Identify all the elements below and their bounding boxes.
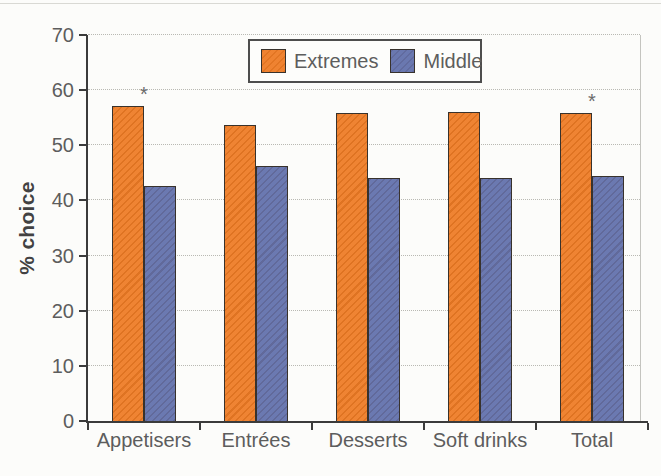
x-category-label-appetisers: Appetisers (88, 429, 200, 452)
y-tick-10 (79, 365, 87, 367)
bar-extremes-entr-es (224, 125, 256, 421)
extremes-color-swatch (261, 49, 286, 73)
y-tick-label-20: 20 (24, 299, 74, 323)
legend-label-extremes: Extremes (294, 50, 378, 73)
y-tick-label-0: 0 (24, 409, 74, 433)
gridline-60 (88, 89, 640, 90)
significance-asterisk-appetisers: * (140, 84, 148, 104)
bar-middle-appetisers (144, 186, 176, 421)
x-category-label-soft-drinks: Soft drinks (424, 429, 536, 452)
y-tick-label-10: 10 (24, 354, 74, 378)
y-tick-30 (79, 255, 87, 257)
legend-item-middle: Middle (390, 49, 482, 73)
bar-chart-figure: % choice ** Extremes Middle 010203040506… (0, 0, 661, 476)
significance-asterisk-total: * (588, 91, 596, 111)
x-category-label-entr-es: Entrées (200, 429, 312, 452)
bar-extremes-soft-drinks (448, 112, 480, 421)
bar-extremes-desserts (336, 113, 368, 421)
y-tick-60 (79, 89, 87, 91)
bar-extremes-total (560, 113, 592, 421)
gridline-70 (88, 34, 640, 35)
y-tick-50 (79, 144, 87, 146)
y-tick-label-70: 70 (24, 23, 74, 47)
plot-area: ** (88, 35, 641, 421)
bar-middle-entr-es (256, 166, 288, 421)
y-axis-title: % choice (15, 148, 39, 308)
photo-top-edge (0, 3, 661, 4)
y-tick-70 (79, 34, 87, 36)
bar-middle-desserts (368, 178, 400, 421)
middle-color-swatch (390, 49, 415, 73)
bar-extremes-appetisers (112, 106, 144, 421)
y-tick-label-30: 30 (24, 244, 74, 268)
x-category-label-desserts: Desserts (312, 429, 424, 452)
x-category-label-total: Total (536, 429, 648, 452)
y-tick-20 (79, 310, 87, 312)
bar-middle-soft-drinks (480, 178, 512, 421)
y-tick-40 (79, 199, 87, 201)
legend-item-extremes: Extremes (261, 49, 378, 73)
legend-label-middle: Middle (423, 50, 482, 73)
bar-middle-total (592, 176, 624, 421)
y-tick-label-50: 50 (24, 133, 74, 157)
y-tick-0 (79, 420, 87, 422)
legend: Extremes Middle (248, 39, 482, 83)
y-tick-label-60: 60 (24, 78, 74, 102)
y-tick-label-40: 40 (24, 188, 74, 212)
x-axis-line (86, 421, 648, 423)
